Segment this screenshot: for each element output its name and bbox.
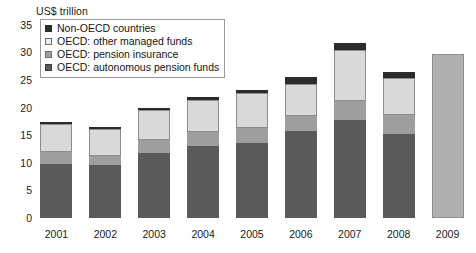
bar-segment (383, 78, 415, 115)
legend-item-label: OECD: autonomous pension funds (57, 61, 219, 74)
bar-segment (285, 77, 317, 84)
x-axis-tick-label: 2002 (81, 228, 130, 240)
bar-group (383, 0, 415, 218)
y-axis-tick-label: 30 (20, 46, 32, 58)
bar-segment (40, 152, 72, 164)
y-axis-tick-label: 5 (26, 184, 32, 196)
x-axis-tick-label: 2009 (423, 228, 472, 240)
y-axis-tick-label: 35 (20, 19, 32, 31)
y-axis: 05101520253035 (0, 0, 36, 253)
bar-segment (334, 43, 366, 50)
bar-segment (89, 165, 121, 218)
legend-swatch-icon (45, 25, 52, 32)
bar-segment (187, 132, 219, 146)
x-axis-tick-label: 2007 (325, 228, 374, 240)
bar-segment (285, 84, 317, 117)
chart-legend: Non-OECD countriesOECD: other managed fu… (40, 19, 225, 78)
y-axis-tick-label: 15 (20, 129, 32, 141)
y-axis-tick-label: 10 (20, 157, 32, 169)
bar-segment (138, 153, 170, 218)
bar-segment (432, 54, 464, 218)
bar-group (334, 0, 366, 218)
x-axis-tick-label: 2006 (276, 228, 325, 240)
x-axis-tick-label: 2008 (374, 228, 423, 240)
bar-segment (89, 127, 121, 129)
x-axis-tick-label: 2004 (179, 228, 228, 240)
bar-segment (334, 50, 366, 101)
y-axis-tick-label: 20 (20, 102, 32, 114)
bar-segment (138, 140, 170, 153)
x-axis-tick-label: 2003 (130, 228, 179, 240)
bar-segment (40, 122, 72, 124)
legend-item-label: OECD: pension insurance (57, 48, 178, 61)
legend-item: Non-OECD countries (45, 22, 219, 35)
bar-segment (236, 93, 268, 128)
bar-segment (40, 124, 72, 152)
legend-item-label: OECD: other managed funds (57, 35, 192, 48)
bar-segment (383, 134, 415, 218)
y-axis-tick-label: 25 (20, 74, 32, 86)
bar-segment (285, 131, 317, 218)
x-axis-tick-label: 2005 (228, 228, 277, 240)
bar-segment (236, 128, 268, 143)
bar-group (236, 0, 268, 218)
bar-segment (334, 120, 366, 218)
legend-item-label: Non-OECD countries (57, 22, 156, 35)
bar-segment (383, 72, 415, 78)
bar-segment (138, 110, 170, 140)
bar-group (285, 0, 317, 218)
stacked-bar-chart: US$ trillion 05101520253035 Non-OECD cou… (0, 0, 476, 253)
legend-swatch-icon (45, 38, 52, 45)
bar-segment (236, 143, 268, 218)
x-axis-tick-label: 2001 (32, 228, 81, 240)
bar-segment (138, 108, 170, 110)
y-axis-tick-label: 0 (26, 212, 32, 224)
bar-segment (40, 164, 72, 218)
bar-segment (187, 100, 219, 132)
bar-group (432, 0, 464, 218)
bar-segment (236, 90, 268, 93)
bar-segment (187, 146, 219, 218)
bar-segment (187, 97, 219, 100)
legend-swatch-icon (45, 64, 52, 71)
legend-item: OECD: other managed funds (45, 35, 219, 48)
legend-item: OECD: autonomous pension funds (45, 61, 219, 74)
bar-segment (89, 129, 121, 156)
bar-segment (89, 156, 121, 165)
legend-swatch-icon (45, 51, 52, 58)
bar-segment (383, 115, 415, 134)
bar-segment (285, 116, 317, 130)
legend-item: OECD: pension insurance (45, 48, 219, 61)
bar-segment (334, 101, 366, 120)
